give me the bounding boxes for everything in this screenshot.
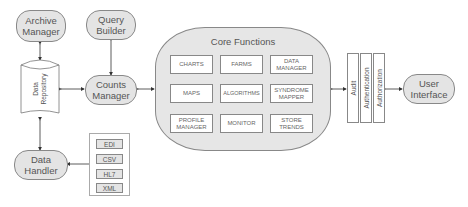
format-hl7: HL7	[96, 169, 123, 179]
data-repository-label: Data Repository	[32, 73, 48, 104]
data-formats-panel: EDI CSV HL7 XML	[89, 133, 130, 196]
format-edi: EDI	[96, 139, 123, 149]
authentication-layer: Authentication	[360, 53, 372, 123]
authorization-label: Authorization	[376, 69, 383, 107]
counts-manager-node: Counts Manager	[85, 75, 137, 105]
fn-data-manager: DATA MANAGER	[270, 55, 313, 74]
fn-algorithms: ALGORITHMS	[220, 84, 263, 103]
counts-manager-label: Counts Manager	[92, 79, 130, 101]
authentication-label: Authentication	[363, 67, 370, 108]
format-xml: XML	[96, 183, 123, 193]
fn-profile-manager: PROFILE MANAGER	[170, 114, 213, 133]
query-builder-node: Query Builder	[86, 10, 136, 40]
core-functions-title: Core Functions	[156, 36, 330, 47]
authorization-layer: Authorization	[373, 53, 385, 123]
fn-charts: CHARTS	[170, 55, 213, 74]
user-interface-node: User Interface	[403, 74, 455, 104]
audit-label: Audit	[350, 81, 357, 96]
user-interface-label: User Interface	[411, 78, 448, 100]
fn-maps: MAPS	[170, 84, 213, 103]
fn-monitor: MONITOR	[220, 114, 263, 133]
data-handler-node: Data Handler	[14, 150, 68, 180]
query-builder-label: Query Builder	[96, 14, 126, 36]
fn-store-trends: STORE TRENDS	[270, 114, 313, 133]
archive-manager-label: Archive Manager	[22, 15, 60, 37]
data-handler-label: Data Handler	[24, 154, 57, 176]
core-functions-container: Core Functions CHARTS FARMS DATA MANAGER…	[155, 27, 331, 151]
archive-manager-node: Archive Manager	[16, 10, 66, 42]
audit-layer: Audit	[347, 53, 359, 123]
format-csv: CSV	[96, 154, 123, 164]
fn-farms: FARMS	[220, 55, 263, 74]
fn-syndrome-mapper: SYNDROME MAPPER	[270, 84, 313, 103]
